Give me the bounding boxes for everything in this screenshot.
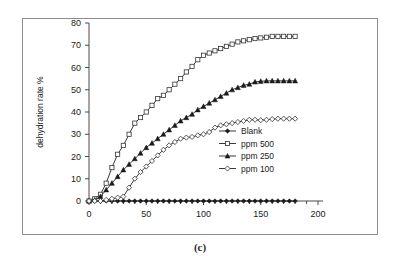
data-point <box>144 199 149 204</box>
figure-caption: (c) <box>0 241 400 253</box>
data-point <box>258 118 263 123</box>
y-tick-label: 30 <box>71 129 81 139</box>
data-point <box>247 199 252 204</box>
x-tick-label: 0 <box>86 209 91 219</box>
data-point <box>230 121 235 126</box>
data-point <box>138 115 142 119</box>
data-point <box>264 117 269 122</box>
data-point <box>138 199 143 204</box>
data-point <box>293 199 298 204</box>
data-point <box>133 199 138 204</box>
data-point <box>156 97 160 101</box>
data-point <box>253 36 257 40</box>
data-point <box>287 116 292 121</box>
y-tick-label: 50 <box>71 85 81 95</box>
data-point <box>201 132 206 137</box>
y-tick-label: 60 <box>71 63 81 73</box>
data-point <box>121 194 126 199</box>
data-point <box>201 199 206 204</box>
data-point <box>281 199 286 204</box>
data-point <box>150 103 154 107</box>
data-point <box>207 101 212 106</box>
data-point <box>167 88 171 92</box>
legend-item-ppm-500[interactable]: ppm 500 <box>219 139 274 149</box>
data-point <box>178 136 183 141</box>
data-point <box>241 118 246 123</box>
data-point <box>287 199 292 204</box>
data-point <box>224 90 229 95</box>
data-point <box>144 110 148 114</box>
legend-item-ppm-250[interactable]: ppm 250 <box>219 151 274 161</box>
y-tick-label: 80 <box>71 19 81 28</box>
data-point <box>259 36 263 40</box>
data-point <box>184 115 189 120</box>
x-tick-label: 100 <box>196 209 211 219</box>
dehydration-rate-line-chart: 01020304050607080050100150200dehydration… <box>23 19 379 236</box>
data-point <box>195 199 200 204</box>
data-point <box>264 35 268 39</box>
data-point <box>184 135 189 140</box>
data-point <box>225 166 230 171</box>
y-axis-title: dehydration rate % <box>35 76 45 148</box>
series-line <box>89 36 295 201</box>
data-point <box>155 199 160 204</box>
data-point <box>167 199 172 204</box>
data-point <box>258 199 263 204</box>
data-point <box>127 199 132 204</box>
legend-label: ppm 250 <box>241 151 274 161</box>
y-tick-label: 0 <box>76 196 81 206</box>
data-point <box>253 117 258 122</box>
data-point <box>287 34 291 38</box>
data-point <box>178 118 183 123</box>
data-point <box>270 199 275 204</box>
data-point <box>275 116 280 121</box>
data-point <box>116 152 120 156</box>
legend-label: ppm 100 <box>241 164 274 174</box>
data-point <box>247 38 251 42</box>
legend-item-blank[interactable]: Blank <box>219 126 263 136</box>
data-point <box>236 199 241 204</box>
data-point <box>218 199 223 204</box>
data-point <box>127 132 131 136</box>
data-point <box>173 82 177 86</box>
data-point <box>195 107 200 112</box>
data-point <box>104 181 108 185</box>
data-point <box>161 199 166 204</box>
data-point <box>224 44 228 48</box>
y-tick-label: 40 <box>71 107 81 117</box>
data-point <box>173 199 178 204</box>
data-point <box>241 39 245 43</box>
data-point <box>150 199 155 204</box>
data-point <box>207 199 212 204</box>
y-tick-label: 20 <box>71 152 81 162</box>
data-point <box>127 185 132 190</box>
data-point <box>218 94 223 99</box>
data-point <box>224 122 229 127</box>
data-point <box>110 166 114 170</box>
data-point <box>270 34 274 38</box>
data-point <box>133 121 137 125</box>
data-point <box>218 123 223 128</box>
data-point <box>172 139 177 144</box>
data-point <box>213 199 218 204</box>
data-point <box>236 40 240 44</box>
data-point <box>293 34 297 38</box>
data-point <box>196 58 200 62</box>
data-point <box>241 199 246 204</box>
data-point <box>201 53 205 57</box>
figure-panel: 01020304050607080050100150200dehydration… <box>22 18 378 235</box>
x-tick-label: 200 <box>310 209 325 219</box>
data-point <box>121 143 125 147</box>
data-point <box>195 133 200 138</box>
data-point <box>276 34 280 38</box>
data-point <box>225 129 230 134</box>
data-point <box>253 199 258 204</box>
data-point <box>282 34 286 38</box>
data-point <box>219 46 223 50</box>
data-point <box>184 199 189 204</box>
data-point <box>98 198 103 203</box>
data-point <box>178 199 183 204</box>
data-point <box>190 64 194 68</box>
data-point <box>235 119 240 124</box>
legend-item-ppm-100[interactable]: ppm 100 <box>219 164 274 174</box>
